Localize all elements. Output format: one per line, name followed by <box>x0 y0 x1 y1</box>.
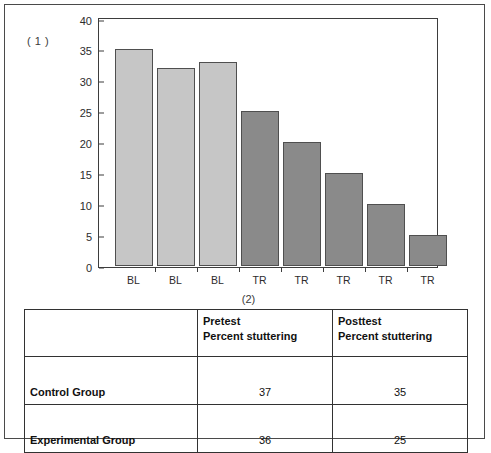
x-axis-tick-mark <box>407 267 408 272</box>
plot-area: 0510152025303540 BLBLBLTRTRTRTRTR <box>98 18 438 268</box>
y-axis-tick-label: 10 <box>80 200 99 212</box>
table-header-cell: PosttestPercent stuttering <box>333 310 468 357</box>
y-axis-tick-label: 20 <box>80 138 99 150</box>
bar-chart: 0510152025303540 BLBLBLTRTRTRTRTR <box>98 18 438 268</box>
table-header-cell: PretestPercent stuttering <box>198 310 333 357</box>
table-cell-pretest: 37 <box>198 357 333 405</box>
y-axis-tick-label: 35 <box>80 45 99 57</box>
table-header-line1: Posttest <box>338 314 467 329</box>
bar <box>241 111 279 265</box>
table-header-line2: Percent stuttering <box>338 329 467 344</box>
bar <box>115 49 153 265</box>
table-row: Control Group3735 <box>25 357 468 405</box>
x-axis-tick-label: TR <box>421 274 435 286</box>
bar <box>325 173 363 266</box>
bar-group <box>101 21 436 266</box>
results-table: PretestPercent stutteringPosttestPercent… <box>24 309 468 453</box>
bar <box>283 142 321 266</box>
x-axis-tick-label: TR <box>295 274 309 286</box>
x-axis-tick-label: TR <box>379 274 393 286</box>
table-cell-posttest: 35 <box>333 357 468 405</box>
x-axis-tick-mark <box>239 267 240 272</box>
table-cell-posttest: 25 <box>333 405 468 453</box>
x-axis-tick-mark <box>197 267 198 272</box>
figure-frame: ( 1 ) 0510152025303540 BLBLBLTRTRTRTRTR … <box>4 4 485 439</box>
x-axis-tick-mark <box>365 267 366 272</box>
x-axis-tick-mark <box>155 267 156 272</box>
y-axis-tick-label: 30 <box>80 76 99 88</box>
x-axis-tick-label: BL <box>211 274 224 286</box>
x-axis-tick-label: BL <box>127 274 140 286</box>
y-axis-tick-label: 40 <box>80 15 99 27</box>
table-row: Experimental Group3625 <box>25 405 468 453</box>
bar <box>157 68 195 266</box>
x-axis-tick-label: TR <box>337 274 351 286</box>
x-axis-tick-mark <box>281 267 282 272</box>
bar <box>199 62 237 266</box>
x-axis-tick-mark <box>323 267 324 272</box>
table-header-blank <box>25 310 198 357</box>
table-cell-pretest: 36 <box>198 405 333 453</box>
table-header-line2: Percent stuttering <box>203 329 332 344</box>
x-axis-tick-label: BL <box>169 274 182 286</box>
table-row-label: Control Group <box>25 357 198 405</box>
table-header-row: PretestPercent stutteringPosttestPercent… <box>25 310 468 357</box>
bar <box>409 235 447 266</box>
y-axis-tick-mark <box>99 267 104 268</box>
y-axis-tick-label: 25 <box>80 107 99 119</box>
panel-two-label-text: (2) <box>242 293 255 305</box>
x-axis-tick-label: TR <box>253 274 267 286</box>
y-axis-tick-label: 5 <box>86 231 99 243</box>
y-axis-tick-label: 0 <box>86 262 99 274</box>
y-axis-tick-label: 15 <box>80 169 99 181</box>
table-row-label: Experimental Group <box>25 405 198 453</box>
bar <box>367 204 405 266</box>
panel-two-label: (2) <box>5 293 486 305</box>
panel-one-label: ( 1 ) <box>27 35 49 47</box>
table-header-line1: Pretest <box>203 314 332 329</box>
